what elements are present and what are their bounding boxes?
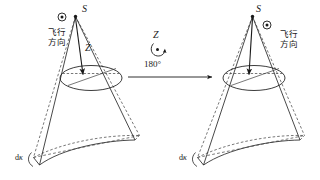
left-ground-dashed [34,135,140,157]
right-apex-point [251,15,254,18]
left-ground-footprint [34,140,136,165]
left-flight-direction-line2: 方向 [42,38,72,48]
left-out-of-page-icon [58,13,66,21]
right-kappa-arc [192,153,197,167]
left-flight-direction-label: 飞行 方向 [42,28,72,47]
right-out-of-page-icon [263,21,271,29]
right-kappa-label: dκ [179,154,187,162]
rotation-axis-point [156,48,159,51]
right-apex-label: S [256,4,261,14]
left-apex-point [74,15,77,18]
left-ellipse-chords [63,69,121,86]
left-kappa-symbol: κ [19,153,23,162]
left-kappa-label: dκ [15,154,23,162]
right-flight-direction-label: 飞行 方向 [274,30,304,49]
right-kappa-symbol: κ [183,153,187,162]
figure-root: S 飞行 方向 Z dκ Z 180° S 飞行 方向 dκ [0,0,320,180]
left-reference-ellipse [60,66,122,91]
rotation-symbol-group [151,44,165,57]
left-z-axis-label: Z [85,43,91,53]
right-flight-direction-line2: 方向 [274,40,304,50]
rotation-angle-label: 180° [144,60,161,69]
left-apex-label: S [82,4,87,14]
rotation-axis-label: Z [153,30,159,40]
right-ground-footprint [198,140,301,165]
left-kappa-arc [28,153,33,167]
